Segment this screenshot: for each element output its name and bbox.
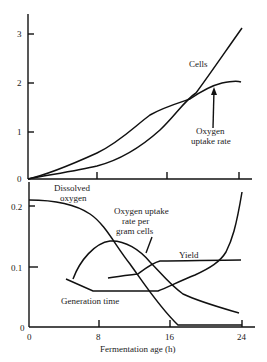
ytick-0.2: 0.2 bbox=[11, 202, 22, 212]
ytick-3: 3 bbox=[17, 29, 22, 39]
top-panel bbox=[28, 14, 252, 179]
label-ourpg-1: Oxygen uptake bbox=[114, 206, 169, 216]
label-yield: Yield bbox=[179, 250, 199, 260]
ytick-1: 1 bbox=[17, 127, 22, 137]
fermentation-chart: 3 2 1 0 Cells Oxygen uptake rate 0.2 0.1… bbox=[0, 0, 267, 362]
x-axis-label: Fermentation age (h) bbox=[100, 344, 175, 354]
ytick-0.1: 0.1 bbox=[11, 263, 22, 273]
label-ourpg-2: rate per bbox=[122, 216, 149, 226]
label-ourpg-3: gram cells bbox=[116, 226, 154, 236]
xtick-8: 8 bbox=[96, 332, 101, 342]
xtick-0: 0 bbox=[27, 332, 32, 342]
label-do-2: oxygen bbox=[60, 193, 87, 203]
ytick-0: 0 bbox=[17, 174, 22, 184]
xtick-16: 16 bbox=[165, 332, 175, 342]
label-generation-time: Generation time bbox=[61, 296, 119, 306]
label-cells: Cells bbox=[189, 59, 208, 69]
bottom-labels: 0.2 0.1 0 0 8 16 24 Fermentation age (h)… bbox=[11, 183, 247, 354]
xtick-24: 24 bbox=[237, 332, 247, 342]
ytick-2: 2 bbox=[17, 78, 22, 88]
top-labels: 3 2 1 0 Cells Oxygen uptake rate bbox=[17, 29, 231, 184]
ytick-0b: 0 bbox=[20, 323, 25, 333]
label-our-2: uptake rate bbox=[191, 136, 231, 146]
label-do-1: Dissolved bbox=[54, 183, 91, 193]
series-cells bbox=[28, 28, 242, 179]
label-our-1: Oxygen bbox=[196, 126, 225, 136]
series-yield bbox=[108, 260, 241, 278]
